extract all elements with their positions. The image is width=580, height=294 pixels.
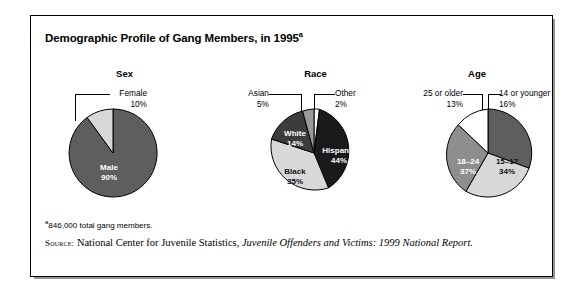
callout-race-asian-value: 5% (225, 99, 269, 110)
chart-heading-sex: Sex (37, 68, 212, 79)
pie-slices-sex (69, 109, 157, 197)
chart-panel-race: Race Asian 5% Other 2% (223, 16, 408, 226)
callout-age-25-or-older-name: 25 or older (397, 88, 463, 99)
callout-race-asian: Asian 5% (225, 88, 269, 109)
source-label: Source: (45, 238, 74, 248)
chart-panel-age: Age 25 or older 13% 14 or younger 16% (403, 16, 551, 226)
pie-label-18-24-value: 37% (460, 167, 476, 176)
figure-frame: Demographic Profile of Gang Members, in … (30, 15, 553, 277)
figure-source: Source: National Center for Juvenile Sta… (45, 237, 473, 248)
figure-footnote: a846,000 total gang members. (45, 219, 152, 230)
pie-chart-age: 15–17 34% 18–24 37% (443, 108, 543, 202)
chart-heading-age: Age (403, 68, 551, 79)
pie-label-hispanic-value: 44% (331, 156, 347, 165)
pie-chart-race: Hispanic 44% Black 35% White 14% (267, 108, 379, 202)
callout-age-14-or-younger-name: 14 or younger (499, 88, 569, 99)
callout-race-other: Other 2% (335, 88, 385, 109)
pie-label-black-value: 35% (287, 177, 303, 186)
pie-label-white-value: 14% (287, 139, 303, 148)
pie-slices-age (447, 109, 532, 197)
footnote-text: 846,000 total gang members. (48, 221, 152, 230)
callout-race-asian-name: Asian (225, 88, 269, 99)
pie-label-white-name: White (284, 129, 306, 138)
pie-label-male-name: Male (100, 163, 118, 172)
pie-label-15-17-value: 34% (499, 167, 515, 176)
callout-age-14-or-younger: 14 or younger 16% (499, 88, 569, 109)
callout-race-other-name: Other (335, 88, 385, 99)
source-title-italic: Juvenile Offenders and Victims: 1999 Nat… (242, 237, 473, 248)
pie-label-male-value: 90% (101, 173, 117, 182)
pie-label-18-24-name: 18–24 (457, 157, 480, 166)
chart-heading-race: Race (223, 68, 408, 79)
source-text: National Center for Juvenile Statistics, (77, 237, 239, 248)
pie-label-15-17-name: 15–17 (496, 157, 519, 166)
pie-label-black-name: Black (284, 167, 306, 176)
callout-age-25-or-older: 25 or older 13% (397, 88, 463, 109)
pie-label-hispanic-name: Hispanic (322, 146, 356, 155)
pie-chart-sex: Male 90% (61, 108, 173, 202)
chart-panel-sex: Sex Female 10% Male 90% (37, 16, 212, 226)
